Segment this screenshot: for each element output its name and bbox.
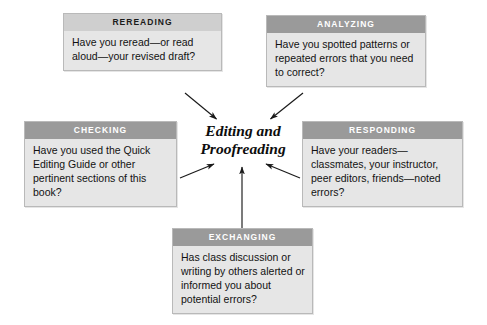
node-exchanging[interactable]: EXCHANGING Has class discussion or writi… bbox=[172, 228, 313, 314]
node-checking-body: Have you used the Quick Editing Guide or… bbox=[25, 139, 176, 206]
node-checking-header: CHECKING bbox=[25, 122, 176, 139]
node-analyzing-body: Have you spotted patterns or repeated er… bbox=[267, 33, 425, 86]
diagram-canvas: REREADING Have you reread—or read aloud—… bbox=[0, 0, 487, 325]
node-responding-header: RESPONDING bbox=[303, 122, 462, 139]
node-responding-body: Have your readers—classmates, your instr… bbox=[303, 139, 462, 206]
node-analyzing-text: Have you spotted patterns or repeated er… bbox=[275, 38, 418, 80]
node-analyzing[interactable]: ANALYZING Have you spotted patterns or r… bbox=[266, 15, 426, 87]
arrow-analyzing-to-center bbox=[271, 93, 304, 119]
node-analyzing-header: ANALYZING bbox=[267, 16, 425, 33]
arrow-checking-to-center bbox=[180, 164, 214, 178]
node-exchanging-text: Has class discussion or writing by other… bbox=[181, 251, 305, 307]
node-checking-text: Have you used the Quick Editing Guide or… bbox=[33, 144, 169, 200]
diagram-center-title: Editing and Proofreading bbox=[178, 122, 308, 158]
arrow-rereading-to-center bbox=[185, 93, 217, 119]
node-responding[interactable]: RESPONDING Have your readers—classmates,… bbox=[302, 121, 463, 207]
node-exchanging-body: Has class discussion or writing by other… bbox=[173, 246, 312, 313]
node-rereading-header: REREADING bbox=[64, 14, 221, 31]
node-checking[interactable]: CHECKING Have you used the Quick Editing… bbox=[24, 121, 177, 207]
node-rereading-body: Have you reread—or read aloud—your revis… bbox=[64, 31, 221, 70]
node-rereading[interactable]: REREADING Have you reread—or read aloud—… bbox=[63, 13, 222, 71]
arrow-responding-to-center bbox=[266, 164, 300, 178]
node-exchanging-header: EXCHANGING bbox=[173, 229, 312, 246]
node-responding-text: Have your readers—classmates, your instr… bbox=[311, 144, 455, 200]
node-rereading-text: Have you reread—or read aloud—your revis… bbox=[72, 36, 214, 64]
